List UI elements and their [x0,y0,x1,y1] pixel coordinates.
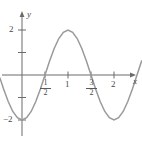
y-tick-label-2: 2 [9,25,14,34]
y-tick-label-neg2: −2 [3,115,13,124]
graph-figure: y x 2 −2 1 2 1 3 2 2 [0,0,142,142]
x-tick-label-2: 2 [111,80,116,89]
fraction-numerator: 1 [40,79,51,87]
y-axis-arrowhead [20,11,25,17]
fraction-denominator: 2 [40,89,51,97]
fraction-denominator: 2 [86,89,97,97]
y-axis-label: y [27,10,31,19]
fraction-numerator: 3 [86,79,97,87]
x-axis-label: x [133,77,137,86]
x-tick-label-half: 1 2 [40,79,51,98]
graph-canvas [0,0,142,142]
x-tick-label-three-halves: 3 2 [86,79,97,98]
x-tick-label-1: 1 [65,80,70,89]
